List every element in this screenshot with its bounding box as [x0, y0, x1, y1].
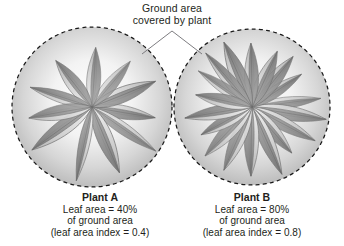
caption-plant-a: Plant A Leaf area = 40% of ground area (… [19, 191, 181, 238]
panel-plant-b [174, 29, 330, 185]
plant-b-line-2: of ground area [171, 215, 333, 227]
plant-a-line-1: Leaf area = 40% [19, 204, 181, 216]
callout-line-2: covered by plant [133, 14, 212, 26]
plant-b-line-3: (leaf area index = 0.8) [171, 227, 333, 239]
panel-plant-a [12, 27, 172, 187]
plant-b-title: Plant B [171, 191, 333, 204]
plant-a-line-2: of ground area [19, 215, 181, 227]
leader-line-icon [142, 31, 202, 54]
plant-b-line-1: Leaf area = 80% [171, 204, 333, 216]
callout-line-1: Ground area [142, 2, 202, 14]
ground-area-callout: Ground area covered by plant [122, 2, 222, 26]
caption-plant-b: Plant B Leaf area = 80% of ground area (… [171, 191, 333, 238]
plant-a-title: Plant A [19, 191, 181, 204]
plant-a-line-3: (leaf area index = 0.4) [19, 227, 181, 239]
